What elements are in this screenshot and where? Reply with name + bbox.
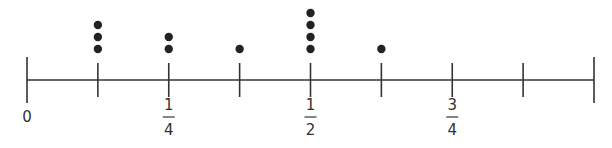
data-dot [165, 45, 173, 53]
fraction-denominator: 4 [164, 121, 174, 139]
fraction-numerator: 1 [306, 96, 316, 114]
fraction-numerator: 1 [164, 96, 174, 114]
data-dot [306, 33, 314, 41]
fraction-label: 14 [163, 96, 175, 139]
data-dot [94, 45, 102, 53]
data-dot [377, 45, 385, 53]
data-dot [94, 21, 102, 29]
fraction-denominator: 4 [447, 121, 457, 139]
fraction-label: 34 [446, 96, 458, 139]
data-dots [94, 9, 386, 53]
fraction-label: 12 [305, 96, 317, 139]
fraction-denominator: 2 [306, 121, 316, 139]
data-dot [235, 45, 243, 53]
data-dot [306, 45, 314, 53]
tick-labels: 0141234 [22, 96, 458, 139]
tick-label: 0 [22, 108, 32, 126]
dot-plot: 0141234 [0, 0, 612, 148]
data-dot [306, 21, 314, 29]
data-dot [94, 33, 102, 41]
data-dot [165, 33, 173, 41]
fraction-numerator: 3 [447, 96, 457, 114]
data-dot [306, 9, 314, 17]
